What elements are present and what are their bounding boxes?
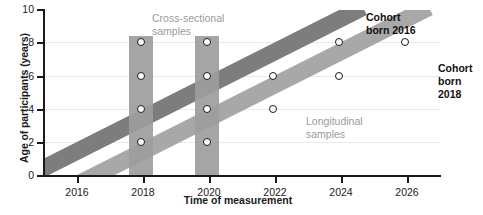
x-tick-2022: [275, 176, 277, 183]
y-tick-label-2: 2: [0, 136, 34, 148]
data-point: [335, 38, 343, 46]
annotation-longitudinal-line2: samples: [306, 128, 345, 141]
data-point: [335, 72, 343, 80]
data-point: [137, 105, 145, 113]
data-point: [203, 38, 211, 46]
y-tick-label-4: 4: [0, 103, 34, 115]
y-tick-label-10: 10: [0, 3, 34, 15]
x-tick-2026: [407, 176, 409, 183]
x-tick-2018: [143, 176, 145, 183]
data-point: [203, 72, 211, 80]
data-point: [269, 105, 277, 113]
x-tick-2024: [341, 176, 343, 183]
annotation-cohort-2018-line3: 2018: [438, 88, 461, 101]
chart-figure: Age of participants (years) 10 8 6 4 2 0: [0, 0, 483, 215]
data-point: [203, 105, 211, 113]
x-axis-line: [43, 175, 441, 177]
x-tick-2016: [77, 176, 79, 183]
annotation-cross-sectional-line1: Cross-sectional: [152, 12, 224, 25]
annotation-longitudinal-line1: Longitudinal: [306, 115, 363, 128]
annotation-cohort-2016-line2: born 2016: [366, 24, 416, 37]
annotation-cohort-2018-line2: born: [438, 75, 461, 88]
data-point: [137, 138, 145, 146]
y-tick-label-0: 0: [0, 169, 34, 181]
data-point: [401, 38, 409, 46]
data-point: [137, 72, 145, 80]
annotation-cohort-2016-line1: Cohort: [366, 11, 400, 24]
y-axis-line: [43, 9, 45, 177]
x-axis-title: Time of measurement: [42, 194, 434, 206]
data-point: [137, 38, 145, 46]
annotation-cohort-2018-line1: Cohort: [438, 62, 472, 75]
data-point: [269, 72, 277, 80]
y-tick-label-8: 8: [0, 36, 34, 48]
y-tick-label-6: 6: [0, 70, 34, 82]
x-tick-2020: [209, 176, 211, 183]
annotation-cross-sectional-line2: samples: [152, 25, 191, 38]
data-point: [203, 138, 211, 146]
gridline-8: [44, 42, 440, 43]
